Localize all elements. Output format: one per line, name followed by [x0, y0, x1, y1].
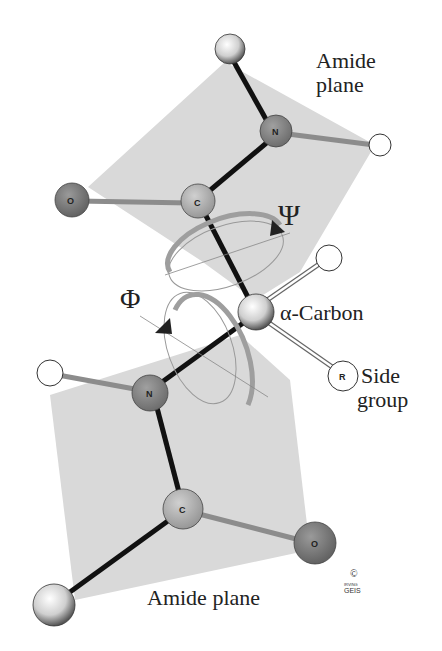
peptide-backbone-diagram: N O C R N C O Amide plane Ψ Φ α-Carbon S… [0, 0, 442, 651]
copyright-mark: © [350, 568, 358, 579]
atom-n-bottom-label: N [146, 389, 153, 399]
signature-line-2: GEIS [344, 587, 361, 594]
amide-plane-top-label-2: plane [316, 72, 364, 97]
alpha-carbon-label: α-Carbon [280, 300, 364, 325]
psi-label: Ψ [278, 198, 301, 231]
atom-c-bottom-label: C [179, 505, 186, 515]
atom-c-top-label: C [194, 198, 201, 208]
atom-r-label: R [339, 372, 346, 382]
atom-h-bottom [37, 360, 63, 386]
atom-n-top-label: N [272, 127, 279, 137]
atom-h-top [369, 134, 391, 156]
atom-h-alpha [316, 245, 342, 271]
amide-plane-top-label-1: Amide [316, 48, 376, 73]
bond-o-c-top-double [78, 201, 190, 203]
atom-o-bottom-label: O [311, 539, 318, 549]
phi-label: Φ [120, 283, 140, 314]
amide-plane-bottom-label: Amide plane [147, 585, 260, 610]
bond-calpha-r-inner [262, 318, 338, 371]
atom-stippled-bottom [33, 584, 75, 626]
side-group-label-2: group [357, 387, 408, 412]
atom-alpha-carbon [238, 294, 274, 330]
side-group-label-1: Side [361, 363, 400, 388]
atom-o-top-label: O [67, 196, 74, 206]
atom-stippled-top [215, 34, 245, 64]
amide-plane-bottom [50, 335, 310, 600]
